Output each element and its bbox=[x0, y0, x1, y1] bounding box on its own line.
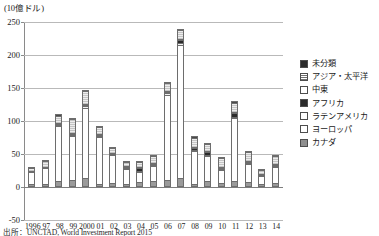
bar-segment bbox=[272, 156, 279, 164]
bar-segment bbox=[204, 156, 211, 181]
y-tick-mark bbox=[21, 22, 24, 23]
bar-column[interactable] bbox=[42, 22, 49, 220]
bar-column[interactable] bbox=[28, 22, 35, 220]
bar-segment bbox=[191, 184, 198, 187]
bar-column[interactable] bbox=[272, 22, 279, 220]
bar-stack bbox=[231, 101, 238, 187]
bars-group bbox=[25, 22, 283, 220]
x-tick-label: 10 bbox=[218, 222, 226, 231]
bar-column[interactable] bbox=[123, 22, 130, 220]
legend-label: アフリカ bbox=[312, 99, 344, 108]
bar-segment bbox=[28, 184, 35, 187]
bar-column[interactable] bbox=[258, 22, 265, 220]
bar-segment bbox=[109, 155, 116, 183]
legend-label: ヨーロッパ bbox=[312, 125, 352, 134]
bar-segment bbox=[123, 184, 130, 187]
legend-swatch-icon bbox=[300, 86, 308, 94]
bar-stack bbox=[123, 161, 130, 187]
bar-segment bbox=[245, 164, 252, 182]
bar-column[interactable] bbox=[177, 22, 184, 220]
legend-item[interactable]: 中東 bbox=[300, 85, 368, 94]
bar-segment bbox=[218, 170, 225, 183]
bar-stack bbox=[96, 126, 103, 187]
bar-stack bbox=[150, 155, 157, 187]
x-tick-label: 08 bbox=[191, 222, 199, 231]
bar-stack bbox=[69, 118, 76, 187]
bar-column[interactable] bbox=[191, 22, 198, 220]
y-tick-mark bbox=[21, 88, 24, 89]
bar-column[interactable] bbox=[218, 22, 225, 220]
bar-column[interactable] bbox=[69, 22, 76, 220]
bar-segment bbox=[231, 181, 238, 187]
bar-segment bbox=[82, 178, 89, 187]
bar-segment bbox=[258, 176, 265, 185]
bar-segment bbox=[218, 183, 225, 187]
bar-segment bbox=[69, 180, 76, 187]
bar-segment bbox=[231, 103, 238, 112]
bar-column[interactable] bbox=[245, 22, 252, 220]
bar-segment bbox=[69, 119, 76, 133]
x-tick-label: 13 bbox=[259, 222, 267, 231]
bar-segment bbox=[164, 180, 171, 187]
bar-segment bbox=[82, 91, 89, 104]
bar-segment bbox=[136, 172, 143, 181]
legend-item[interactable]: アジア・太平洋 bbox=[300, 72, 368, 81]
bar-segment bbox=[177, 30, 184, 39]
legend-label: ラテンアメリカ bbox=[312, 112, 368, 121]
source-caption: 出所：UNCTAD, World Investment Report 2015 bbox=[3, 226, 152, 236]
bar-segment bbox=[191, 138, 198, 146]
y-axis-unit-label: (10億ドル) bbox=[4, 1, 44, 13]
bar-column[interactable] bbox=[96, 22, 103, 220]
bar-stack bbox=[109, 147, 116, 187]
bar-stack bbox=[258, 169, 265, 187]
y-tick-mark bbox=[21, 55, 24, 56]
bar-segment bbox=[69, 136, 76, 180]
bar-column[interactable] bbox=[109, 22, 116, 220]
bar-column[interactable] bbox=[231, 22, 238, 220]
bar-segment bbox=[218, 158, 225, 166]
bar-segment bbox=[136, 182, 143, 187]
bar-segment bbox=[96, 184, 103, 187]
legend-label: アジア・太平洋 bbox=[312, 72, 368, 81]
y-tick-label: 100 bbox=[0, 116, 20, 126]
y-tick-mark bbox=[21, 154, 24, 155]
bar-segment bbox=[164, 95, 171, 180]
bar-segment bbox=[96, 127, 103, 135]
x-tick-label: 11 bbox=[232, 222, 240, 231]
bar-stack bbox=[42, 160, 49, 187]
bar-column[interactable] bbox=[204, 22, 211, 220]
gridline--50 bbox=[24, 220, 283, 221]
bar-segment bbox=[150, 166, 157, 181]
y-tick-label: 50 bbox=[0, 149, 20, 159]
legend-swatch-icon bbox=[300, 60, 308, 68]
legend-label: 中東 bbox=[312, 85, 328, 94]
plot-area bbox=[24, 22, 283, 220]
bar-segment bbox=[272, 183, 279, 188]
legend-item[interactable]: カナダ bbox=[300, 138, 368, 147]
bar-stack bbox=[164, 82, 171, 187]
legend-item[interactable]: 未分類 bbox=[300, 59, 368, 68]
y-tick-mark bbox=[21, 121, 24, 122]
bar-stack bbox=[136, 161, 143, 187]
bar-segment bbox=[96, 137, 103, 183]
legend-item[interactable]: ラテンアメリカ bbox=[300, 112, 368, 121]
legend-item[interactable]: ヨーロッパ bbox=[300, 125, 368, 134]
bar-segment bbox=[109, 183, 116, 187]
legend-swatch-icon bbox=[300, 112, 308, 120]
x-tick-label: 09 bbox=[205, 222, 213, 231]
bar-column[interactable] bbox=[55, 22, 62, 220]
bar-segment bbox=[150, 181, 157, 187]
x-tick-label: 07 bbox=[178, 222, 186, 231]
bar-stack bbox=[82, 90, 89, 187]
bar-column[interactable] bbox=[136, 22, 143, 220]
bar-stack bbox=[191, 136, 198, 187]
bar-column[interactable] bbox=[150, 22, 157, 220]
legend-item[interactable]: アフリカ bbox=[300, 99, 368, 108]
legend-swatch-icon bbox=[300, 73, 308, 81]
bar-column[interactable] bbox=[164, 22, 171, 220]
bar-segment bbox=[245, 182, 252, 187]
legend-swatch-icon bbox=[300, 99, 308, 107]
bar-stack bbox=[218, 157, 225, 187]
bar-column[interactable] bbox=[82, 22, 89, 220]
legend-label: カナダ bbox=[312, 138, 336, 147]
